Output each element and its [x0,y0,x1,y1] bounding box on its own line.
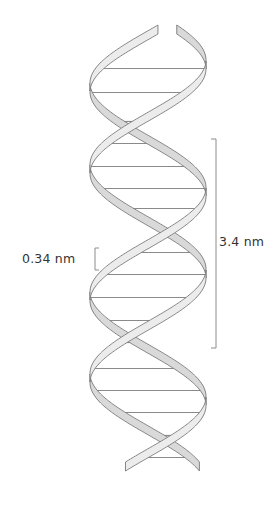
base-pair-rungs [90,69,206,458]
backbone-ribbon-segment [177,25,206,69]
backbone-ribbon-segment [90,25,158,91]
base-pair-spacing-label: 0.34 nm [22,251,75,266]
helical-turn-bracket [211,139,216,348]
base-pair-spacing-bracket [95,248,99,270]
helical-turn-length-label: 3.4 nm [219,234,264,249]
